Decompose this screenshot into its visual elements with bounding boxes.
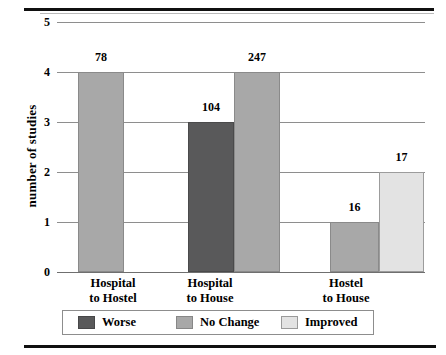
y-tick-label-1: 1 [34,215,50,230]
bar-chart-figure: number of studies 5 4 3 2 1 0 78 104 247… [0,0,446,355]
category-label-hostel-to-house: Hostel to House [293,276,399,305]
category-label-line-2: to Hostel [60,291,166,306]
y-tick-label-2: 2 [34,165,50,180]
legend-swatch-improved-icon [281,316,298,329]
legend-item-no-change: No Change [176,315,259,330]
category-label-line-1: Hospital [60,276,166,291]
legend-item-worse: Worse [78,315,136,330]
bar-hospital-to-house-no-change [234,72,280,272]
y-axis-title: number of studies [24,81,40,231]
y-tick-label-4: 4 [34,65,50,80]
legend-label-no-change: No Change [200,315,259,330]
bar-value-hostel-to-house-improved: 17 [379,150,424,165]
bar-hospital-to-hostel-no-change [78,72,124,272]
category-label-line-2: to House [293,291,399,306]
legend-label-worse: Worse [102,315,136,330]
y-tick-label-0: 0 [34,265,50,280]
category-label-line-2: to House [157,291,263,306]
y-tick-label-3: 3 [34,115,50,130]
bar-value-hospital-to-house-no-change: 247 [234,50,280,65]
bar-value-hospital-to-hostel-no-change: 78 [78,50,124,65]
legend-swatch-no-change-icon [176,316,193,329]
gridline-5 [57,22,425,23]
category-label-line-1: Hospital [157,276,263,291]
legend-label-improved: Improved [305,315,358,330]
top-rule [24,8,434,11]
legend: Worse No Change Improved [62,310,374,335]
plot-area: 78 104 247 16 17 [57,22,425,272]
bar-hostel-to-house-no-change [330,222,379,272]
bar-value-hostel-to-house-no-change: 16 [330,200,379,215]
gridline-0-baseline [57,272,425,273]
bar-value-hospital-to-house-worse: 104 [188,100,234,115]
bottom-rule [24,345,436,348]
y-tick-label-5: 5 [34,15,50,30]
legend-item-improved: Improved [281,315,358,330]
bar-hostel-to-house-improved [379,172,424,272]
category-label-hospital-to-house: Hospital to House [157,276,263,305]
top-hairline-rule [40,13,434,14]
legend-swatch-worse-icon [78,316,95,329]
category-label-line-1: Hostel [293,276,399,291]
category-label-hospital-to-hostel: Hospital to Hostel [60,276,166,305]
bar-hospital-to-house-worse [188,122,234,272]
